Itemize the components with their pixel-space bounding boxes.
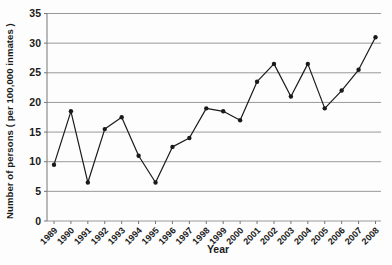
data-point xyxy=(221,109,225,113)
data-point xyxy=(103,127,107,131)
data-point xyxy=(204,106,208,110)
x-year-label: 2007 xyxy=(343,225,364,246)
x-year-label: 1996 xyxy=(157,225,178,246)
x-year-label: 2004 xyxy=(292,225,313,246)
y-tick-label: 0 xyxy=(35,215,41,227)
y-tick-label: 10 xyxy=(29,155,41,167)
x-year-label: 2003 xyxy=(275,225,296,246)
data-point xyxy=(323,106,327,110)
x-year-label: 1997 xyxy=(174,225,195,246)
data-point xyxy=(187,136,191,140)
y-tick-label: 30 xyxy=(29,37,41,49)
data-point xyxy=(119,115,123,119)
x-year-label: 1993 xyxy=(106,225,127,246)
x-year-label: 2006 xyxy=(326,225,347,246)
y-tick-label: 20 xyxy=(29,96,41,108)
x-year-label: 1994 xyxy=(123,225,144,246)
data-point xyxy=(69,109,73,113)
data-point xyxy=(373,35,377,39)
data-point xyxy=(306,62,310,66)
x-axis-title: Year xyxy=(207,243,229,255)
data-point xyxy=(356,68,360,72)
chart-canvas: 0510152025303519891990199119921993199419… xyxy=(0,0,392,265)
x-year-label: 2008 xyxy=(360,225,381,246)
x-year-label: 1989 xyxy=(38,225,59,246)
series-line xyxy=(54,37,376,182)
data-point xyxy=(289,94,293,98)
y-axis-title: Number of persons ( per 100,000 inmates … xyxy=(4,23,15,219)
x-year-label: 1992 xyxy=(89,225,110,246)
y-tick-label: 5 xyxy=(35,185,41,197)
data-point xyxy=(136,154,140,158)
data-point xyxy=(339,88,343,92)
data-point xyxy=(170,145,174,149)
x-year-label: 1995 xyxy=(140,225,161,246)
data-point xyxy=(86,180,90,184)
chart-svg: 0510152025303519891990199119921993199419… xyxy=(0,0,392,265)
y-tick-label: 25 xyxy=(29,66,41,78)
data-point xyxy=(255,79,259,83)
x-year-label: 2005 xyxy=(309,225,330,246)
x-year-label: 1991 xyxy=(72,225,93,246)
data-point xyxy=(272,62,276,66)
y-tick-label: 15 xyxy=(29,126,41,138)
data-point xyxy=(153,180,157,184)
x-year-label: 1990 xyxy=(55,225,76,246)
x-year-label: 2002 xyxy=(258,225,279,246)
data-point xyxy=(52,162,56,166)
y-tick-label: 35 xyxy=(29,7,41,19)
x-year-label: 2001 xyxy=(241,225,262,246)
data-point xyxy=(238,118,242,122)
